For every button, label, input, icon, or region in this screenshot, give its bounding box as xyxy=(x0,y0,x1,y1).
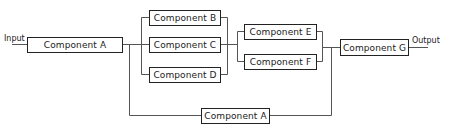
component-f-box: Component F xyxy=(244,54,317,70)
output-label: Output xyxy=(412,36,440,45)
component-b-box: Component B xyxy=(149,10,221,26)
component-c-box: Component C xyxy=(149,37,221,53)
input-label: Input xyxy=(4,34,25,43)
component-a-box: Component A xyxy=(27,37,123,53)
component-a-bypass-box: Component A xyxy=(201,108,270,124)
component-d-box: Component D xyxy=(149,67,221,83)
component-e-box: Component E xyxy=(244,24,317,40)
component-g-box: Component G xyxy=(340,39,409,56)
